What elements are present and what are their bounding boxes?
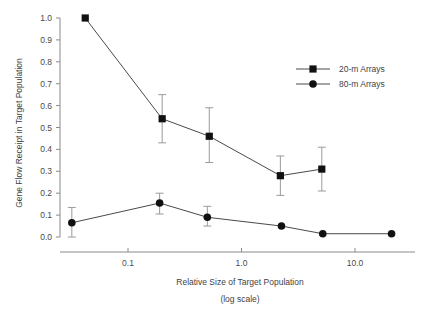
- y-tick-label: 1.0: [40, 13, 52, 23]
- chart-legend: 20-m Arrays80-m Arrays: [296, 64, 385, 89]
- data-point-marker: [156, 199, 164, 207]
- y-tick-label: 0.2: [40, 188, 52, 198]
- legend-marker-circle: [309, 80, 317, 88]
- y-axis: 0.00.10.20.30.40.50.60.70.80.91.0: [40, 13, 60, 242]
- series-1: [82, 14, 326, 195]
- x-axis-subtitle: (log scale): [220, 294, 259, 304]
- data-point-marker: [278, 222, 286, 230]
- y-tick-label: 0.6: [40, 101, 52, 111]
- x-tick-label: 1.0: [236, 258, 248, 268]
- y-tick-label: 0.0: [40, 232, 52, 242]
- chart-figure: 0.00.10.20.30.40.50.60.70.80.91.0 0.11.0…: [0, 0, 427, 311]
- y-tick-label: 0.9: [40, 35, 52, 45]
- series-line: [85, 18, 322, 176]
- y-tick-label: 0.8: [40, 57, 52, 67]
- data-point-marker: [388, 230, 396, 238]
- y-tick-label: 0.3: [40, 166, 52, 176]
- data-point-marker: [319, 230, 327, 238]
- x-axis-title: Relative Size of Target Population: [176, 277, 304, 287]
- data-point-marker: [82, 14, 89, 21]
- series-line: [72, 203, 392, 234]
- data-point-marker: [318, 166, 325, 173]
- x-axis-ticks: 0.11.010.0: [122, 248, 363, 268]
- chart-plot-area: 0.00.10.20.30.40.50.60.70.80.91.0 0.11.0…: [0, 0, 427, 311]
- x-axis: 0.11.010.0: [60, 248, 415, 268]
- data-series-layer: [68, 14, 396, 237]
- y-tick-label: 0.7: [40, 79, 52, 89]
- y-axis-title: Gene Flow Receipt in Target Population: [14, 58, 24, 208]
- legend-marker-square: [309, 65, 316, 72]
- data-point-marker: [206, 133, 213, 140]
- x-tick-label: 10.0: [347, 258, 364, 268]
- y-tick-label: 0.4: [40, 144, 52, 154]
- y-axis-ticks: 0.00.10.20.30.40.50.60.70.80.91.0: [40, 13, 60, 242]
- legend-label: 20-m Arrays: [339, 64, 385, 74]
- y-tick-label: 0.5: [40, 123, 52, 133]
- data-point-marker: [277, 172, 284, 179]
- data-point-marker: [159, 115, 166, 122]
- y-tick-label: 0.1: [40, 210, 52, 220]
- data-point-marker: [68, 219, 76, 227]
- data-point-marker: [204, 213, 212, 221]
- x-tick-label: 0.1: [122, 258, 134, 268]
- series-2: [68, 193, 396, 237]
- legend-label: 80-m Arrays: [339, 79, 385, 89]
